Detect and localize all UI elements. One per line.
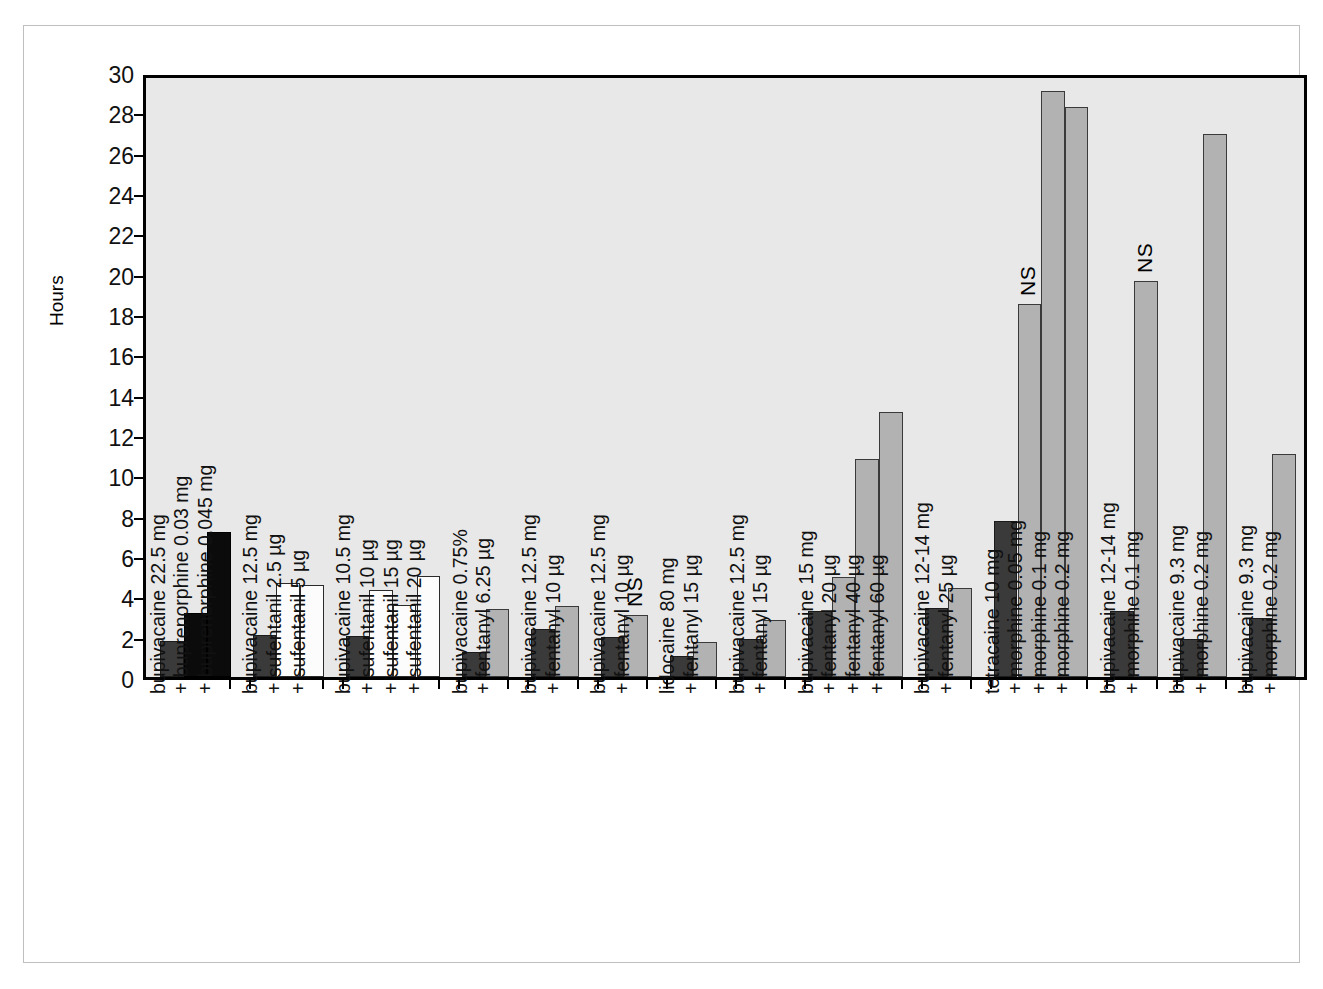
x-label-line: bupivacaine 12.5 mg: [589, 514, 609, 694]
x-label-line: + morphine 0.2 mg: [1261, 531, 1281, 694]
x-label-line: + morphine 0.1 mg: [1030, 531, 1050, 694]
x-axis-tick: [458, 680, 460, 689]
x-label-line: + fentanyl 15 µg: [682, 554, 702, 694]
x-label-line: tetracaine 10 mg: [983, 549, 1003, 694]
x-label-line: bupivacaine 12-14 mg: [913, 502, 933, 694]
x-axis-tick: [666, 680, 668, 689]
x-axis-tick: [342, 680, 344, 689]
x-label-line: + fentanyl 10 µg: [544, 554, 564, 694]
x-label-line: + morphine 0.05 mg: [1006, 520, 1026, 694]
x-axis-tick: [527, 680, 529, 689]
x-axis-tick: [715, 680, 717, 689]
x-label-line: + fentanyl 40 µg: [844, 554, 864, 694]
x-label-line: + fentanyl 10 µg: [613, 554, 633, 694]
x-axis-tick: [438, 680, 440, 689]
x-label-line: lidocaine 80 mg: [658, 557, 678, 694]
x-label-line: + buprenorphine 0.03 mg: [172, 476, 192, 694]
x-axis-tick: [229, 680, 231, 689]
x-label-line: + fentanyl 25 µg: [937, 554, 957, 694]
x-axis-tick: [249, 680, 251, 689]
x-axis-tick: [646, 680, 648, 689]
x-label-line: + fentanyl 60 µg: [868, 554, 888, 694]
x-axis-tick: [784, 680, 786, 689]
x-label-line: + sufentanil 15 µg: [382, 539, 402, 694]
x-axis-labels: bupivacaine 22.5 mg+ buprenorphine 0.03 …: [24, 26, 1323, 989]
x-label-line: + sufentanil 10 µg: [358, 539, 378, 694]
x-label-line: + sufentanil 5 µg: [289, 550, 309, 694]
x-label-line: bupivacaine 0.75%: [451, 529, 471, 694]
x-label-line: bupivacaine 12-14 mg: [1099, 502, 1119, 694]
figure-frame: Hours 302826242220181614121086420 NSNSNS…: [23, 25, 1300, 963]
x-axis-tick: [921, 680, 923, 689]
x-axis-tick: [804, 680, 806, 689]
x-label-line: + buprenorphine 0.045 mg: [196, 465, 216, 694]
x-label-line: + morphine 0.2 mg: [1053, 531, 1073, 694]
x-axis-tick: [1176, 680, 1178, 689]
x-label-line: bupivacaine 12.5 mg: [520, 514, 540, 694]
x-label-line: + sufentanil 20 µg: [405, 539, 425, 694]
x-axis-tick: [970, 680, 972, 689]
x-label-line: bupivacaine 22.5 mg: [149, 514, 169, 694]
x-axis-tick: [507, 680, 509, 689]
x-axis-tick: [990, 680, 992, 689]
x-axis-tick: [322, 680, 324, 689]
x-label-line: bupivacaine 12.5 mg: [728, 514, 748, 694]
x-axis-tick: [1086, 680, 1088, 689]
x-axis-tick: [901, 680, 903, 689]
x-label-line: + fentanyl 15 µg: [751, 554, 771, 694]
x-label-line: + sufentanil 2.5 µg: [265, 534, 285, 694]
x-axis-tick: [1106, 680, 1108, 689]
x-label-line: + fentanyl 6.25 µg: [474, 538, 494, 694]
x-axis-tick: [735, 680, 737, 689]
x-label-line: + fentanyl 20 µg: [820, 554, 840, 694]
x-label-line: bupivacaine 10.5 mg: [334, 514, 354, 694]
x-axis-tick: [1245, 680, 1247, 689]
x-label-line: bupivacaine 15 mg: [797, 530, 817, 694]
x-label-line: bupivacaine 12.5 mg: [241, 514, 261, 694]
x-axis-tick: [597, 680, 599, 689]
x-axis-tick: [1156, 680, 1158, 689]
x-label-line: + morphine 0.2 mg: [1192, 531, 1212, 694]
x-axis-tick: [1225, 680, 1227, 689]
x-label-line: bupivacaine 9.3 mg: [1168, 525, 1188, 694]
x-axis-tick: [577, 680, 579, 689]
x-label-line: + morphine 0.1 mg: [1123, 531, 1143, 694]
x-label-line: bupivacaine 9.3 mg: [1237, 525, 1257, 694]
